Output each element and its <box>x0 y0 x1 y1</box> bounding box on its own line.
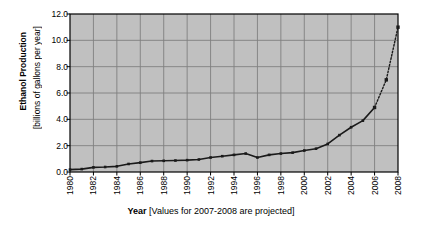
x-axis-tick-labels: 1980198219841986198819901992199419961998… <box>0 176 422 206</box>
x-tick-label: 1998 <box>276 176 286 195</box>
y-axis-title: Ethanol Production <box>18 32 28 110</box>
x-tick-label: 2006 <box>370 176 380 195</box>
x-tick-label: 1982 <box>88 176 98 195</box>
y-tick-label: 4.0 <box>38 115 68 124</box>
x-tick-label: 1986 <box>135 176 145 195</box>
x-tick-label: 2000 <box>299 176 309 195</box>
y-tick-label: 10.0 <box>38 36 68 45</box>
y-tick-label: 2.0 <box>38 142 68 151</box>
y-axis-tick-labels: 12.0 10.0 8.0 6.0 4.0 2.0 0.0 <box>34 0 68 190</box>
ethanol-production-chart: Ethanol Production [billions of gallons … <box>0 0 422 228</box>
x-tick-label: 2002 <box>323 176 333 195</box>
x-tick-label: 1992 <box>206 176 216 195</box>
x-tick-label: 1990 <box>182 176 192 195</box>
x-axis-title-rest: [Values for 2007-2008 are projected] <box>147 206 295 216</box>
x-tick-label: 1994 <box>229 176 239 195</box>
y-tick-label: 12.0 <box>38 10 68 19</box>
y-tick-label: 8.0 <box>38 63 68 72</box>
x-axis-title: Year [Values for 2007-2008 are projected… <box>0 206 422 216</box>
x-axis-title-bold: Year <box>128 206 147 216</box>
x-tick-label: 1984 <box>112 176 122 195</box>
y-tick-label: 6.0 <box>38 89 68 98</box>
x-tick-label: 1988 <box>159 176 169 195</box>
x-tick-label: 2004 <box>346 176 356 195</box>
x-tick-label: 1980 <box>65 176 75 195</box>
x-tick-label: 1996 <box>252 176 262 195</box>
x-tick-label: 2008 <box>393 176 403 195</box>
